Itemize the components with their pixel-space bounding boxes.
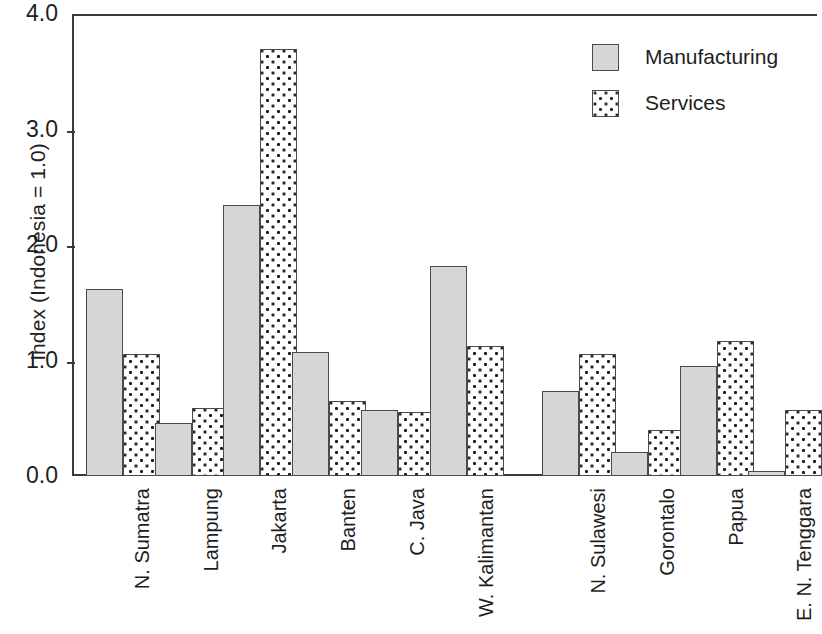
y-axis-tick-label: 2.0 bbox=[4, 233, 58, 256]
bar-manufacturing-papua bbox=[680, 366, 717, 476]
bar-manufacturing-gorontalo bbox=[611, 452, 648, 476]
bar-services-papua bbox=[717, 341, 754, 476]
x-axis-tick-label: W. Kalimantan bbox=[476, 488, 496, 617]
y-axis-tick-label: 0.0 bbox=[4, 464, 58, 487]
bar-manufacturing-lampung bbox=[155, 423, 192, 476]
legend-swatch-manufacturing bbox=[592, 44, 619, 71]
x-axis-tick-label: E. N. Tenggara bbox=[794, 488, 814, 621]
bar-manufacturing-e-n-tenggara bbox=[748, 471, 785, 476]
y-axis-tick-label: 3.0 bbox=[4, 118, 58, 141]
legend-label: Services bbox=[645, 91, 726, 115]
bar-services-w-kalimantan bbox=[467, 346, 504, 477]
legend-item-services[interactable]: Services bbox=[592, 80, 807, 126]
bar-manufacturing-c-java bbox=[361, 410, 398, 476]
bar-manufacturing-w-kalimantan bbox=[430, 266, 467, 476]
legend-label: Manufacturing bbox=[645, 45, 778, 69]
bar-manufacturing-n-sulawesi bbox=[542, 391, 579, 476]
legend: ManufacturingServices bbox=[592, 34, 807, 126]
x-axis-tick-label: Gorontalo bbox=[657, 488, 677, 576]
x-axis-tick-label: Lampung bbox=[201, 488, 221, 571]
y-axis-tick-label: 1.0 bbox=[4, 349, 58, 372]
x-axis-tick-label: Papua bbox=[726, 488, 746, 546]
x-axis-tick-labels: N. SumatraLampungJakartaBantenC. JavaW. … bbox=[72, 482, 817, 634]
x-axis-tick-label: Banten bbox=[338, 488, 358, 551]
x-axis-tick-label: N. Sulawesi bbox=[588, 488, 608, 594]
legend-item-manufacturing[interactable]: Manufacturing bbox=[592, 34, 807, 80]
x-axis-tick-label: N. Sumatra bbox=[132, 488, 152, 589]
x-axis-tick-label: C. Java bbox=[407, 488, 427, 556]
y-axis-tick-labels: 0.01.02.03.04.0 bbox=[0, 0, 58, 634]
x-axis-tick-label: Jakarta bbox=[269, 488, 289, 554]
bar-manufacturing-banten bbox=[292, 352, 329, 476]
bar-manufacturing-jakarta bbox=[223, 205, 260, 476]
y-axis-tick-label: 4.0 bbox=[4, 2, 58, 25]
bar-services-e-n-tenggara bbox=[785, 410, 822, 476]
bar-manufacturing-n-sumatra bbox=[86, 289, 123, 476]
legend-swatch-services bbox=[592, 90, 619, 117]
